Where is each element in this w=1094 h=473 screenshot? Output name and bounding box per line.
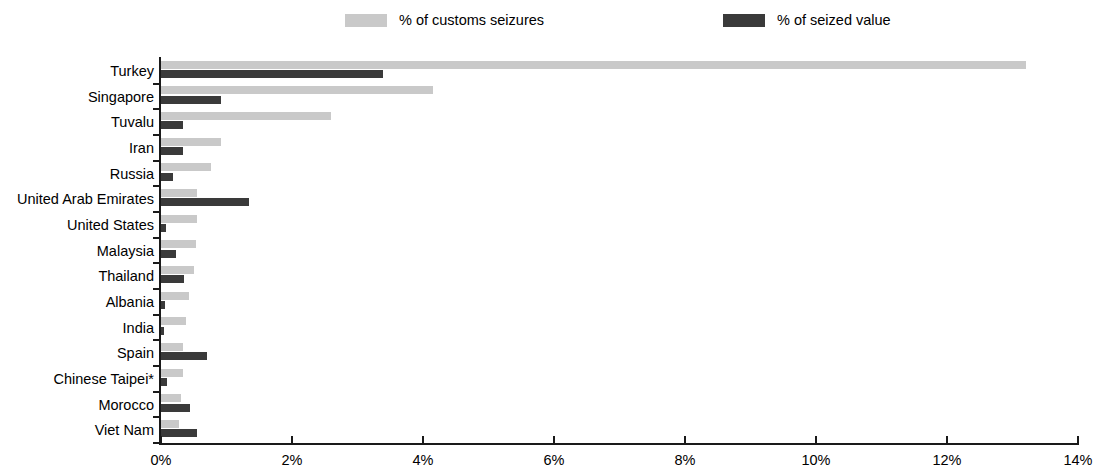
bar-customs-seizures — [161, 215, 197, 223]
x-axis-tick — [160, 436, 162, 444]
legend-label-seized-value: % of seized value — [777, 12, 891, 28]
y-axis-tick — [153, 185, 160, 187]
y-axis-tick — [153, 262, 160, 264]
bar-customs-seizures — [161, 343, 183, 351]
y-axis-tick — [153, 108, 160, 110]
bar-customs-seizures — [161, 138, 221, 146]
bar-seized-value — [161, 147, 183, 155]
bar-seized-value — [161, 96, 221, 104]
bar-seized-value — [161, 250, 176, 258]
bar-customs-seizures — [161, 317, 186, 325]
bar-seized-value — [161, 378, 167, 386]
bar-customs-seizures — [161, 369, 183, 377]
bar-seized-value — [161, 70, 383, 78]
category-label: Morocco — [98, 397, 160, 413]
x-axis-line — [159, 443, 1079, 445]
bar-seized-value — [161, 275, 184, 283]
category-label: Spain — [117, 345, 160, 361]
chart-legend: % of customs seizures % of seized value — [0, 0, 1094, 40]
category-label: United Arab Emirates — [17, 191, 160, 207]
x-axis-tick — [291, 436, 293, 444]
y-axis-tick — [153, 416, 160, 418]
legend-swatch-customs-seizures — [345, 14, 387, 27]
y-axis-tick — [153, 83, 160, 85]
category-label: India — [123, 320, 160, 336]
y-axis-tick — [153, 237, 160, 239]
category-label: Viet Nam — [95, 422, 160, 438]
x-axis-tick-label: 6% — [544, 452, 565, 468]
category-label: Tuvalu — [111, 114, 160, 130]
bar-seized-value — [161, 224, 166, 232]
bar-seized-value — [161, 121, 183, 129]
y-axis-tick — [153, 365, 160, 367]
bar-customs-seizures — [161, 266, 194, 274]
x-axis-tick — [1077, 436, 1079, 444]
bar-customs-seizures — [161, 61, 1026, 69]
category-label: Chinese Taipei* — [54, 371, 161, 387]
x-axis-tick-label: 14% — [1063, 452, 1092, 468]
bar-seized-value — [161, 429, 197, 437]
bar-seized-value — [161, 352, 207, 360]
x-axis-tick-label: 0% — [151, 452, 172, 468]
y-axis-tick — [153, 211, 160, 213]
x-axis-tick-label: 2% — [282, 452, 303, 468]
bar-customs-seizures — [161, 292, 189, 300]
y-axis-tick — [153, 442, 160, 444]
category-label: Iran — [129, 140, 160, 156]
category-label: Malaysia — [97, 243, 160, 259]
y-axis-tick — [153, 339, 160, 341]
category-label: Thailand — [98, 268, 160, 284]
x-axis-tick — [684, 436, 686, 444]
y-axis-tick — [153, 288, 160, 290]
bar-seized-value — [161, 301, 165, 309]
x-axis-tick-label: 4% — [413, 452, 434, 468]
legend-item-customs-seizures: % of customs seizures — [345, 10, 544, 30]
category-label: Russia — [110, 166, 160, 182]
bar-customs-seizures — [161, 163, 211, 171]
bar-customs-seizures — [161, 420, 179, 428]
bar-customs-seizures — [161, 86, 433, 94]
x-axis-tick-label: 10% — [801, 452, 830, 468]
x-axis-tick — [422, 436, 424, 444]
category-label: Singapore — [88, 89, 160, 105]
x-axis-tick-label: 12% — [932, 452, 961, 468]
x-axis-tick — [946, 436, 948, 444]
y-axis-tick — [153, 391, 160, 393]
category-label: Albania — [106, 294, 160, 310]
bar-customs-seizures — [161, 394, 181, 402]
legend-item-seized-value: % of seized value — [723, 10, 891, 30]
x-axis-tick — [815, 436, 817, 444]
category-label: Turkey — [110, 63, 160, 79]
bar-seized-value — [161, 404, 190, 412]
y-axis-tick — [153, 314, 160, 316]
y-axis-tick — [153, 160, 160, 162]
bar-customs-seizures — [161, 240, 196, 248]
legend-label-customs-seizures: % of customs seizures — [399, 12, 544, 28]
x-axis-tick-label: 8% — [675, 452, 696, 468]
bar-customs-seizures — [161, 112, 331, 120]
chart-plot-area: TurkeySingaporeTuvaluIranRussiaUnited Ar… — [0, 40, 1094, 473]
bar-seized-value — [161, 198, 249, 206]
y-axis-tick — [153, 134, 160, 136]
category-label: United States — [67, 217, 160, 233]
legend-swatch-seized-value — [723, 14, 765, 27]
x-axis-tick — [553, 436, 555, 444]
bar-seized-value — [161, 173, 173, 181]
bar-customs-seizures — [161, 189, 197, 197]
bar-seized-value — [161, 327, 164, 335]
